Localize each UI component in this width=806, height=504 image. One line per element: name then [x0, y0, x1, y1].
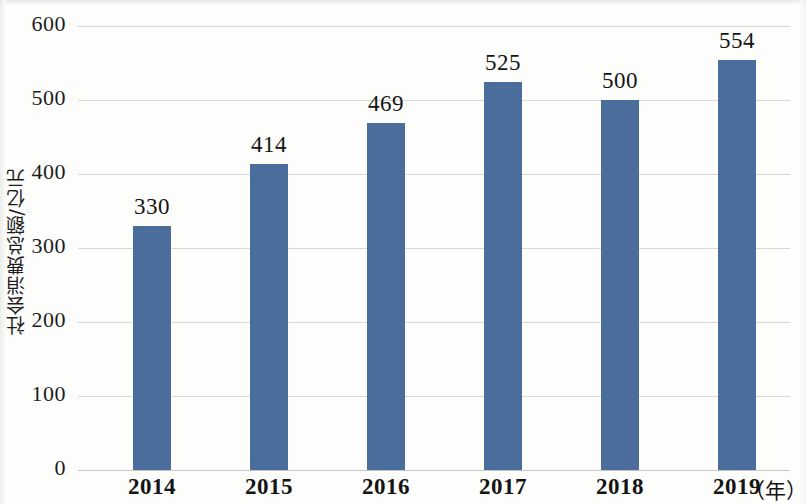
axis-layer: 社会消费总额/亿元 （年） 01002003004005006003302014…: [0, 0, 806, 504]
bar-value-label: 500: [560, 68, 680, 94]
y-axis-tick-label: 100: [0, 381, 66, 407]
y-axis-tick-label: 400: [0, 159, 66, 185]
y-axis-tick-label: 300: [0, 233, 66, 259]
bar-value-label: 469: [326, 91, 446, 117]
bar-value-label: 414: [209, 132, 329, 158]
x-axis-tick-label-2016: 2016: [326, 474, 446, 500]
y-axis-tick-label: 0: [0, 455, 66, 481]
y-axis-tick-label: 600: [0, 11, 66, 37]
y-axis-tick-label: 500: [0, 85, 66, 111]
x-axis-tick-label-2014: 2014: [92, 474, 212, 500]
y-axis-tick-label: 200: [0, 307, 66, 333]
x-axis-tick-label-2019: 2019: [677, 474, 797, 500]
bar-value-label: 554: [677, 28, 797, 54]
bar-chart: 社会消费总额/亿元 （年） 01002003004005006003302014…: [0, 0, 806, 504]
x-axis-tick-label-2018: 2018: [560, 474, 680, 500]
x-axis-tick-label-2015: 2015: [209, 474, 329, 500]
bar-value-label: 330: [92, 194, 212, 220]
bar-value-label: 525: [443, 50, 563, 76]
x-axis-tick-label-2017: 2017: [443, 474, 563, 500]
